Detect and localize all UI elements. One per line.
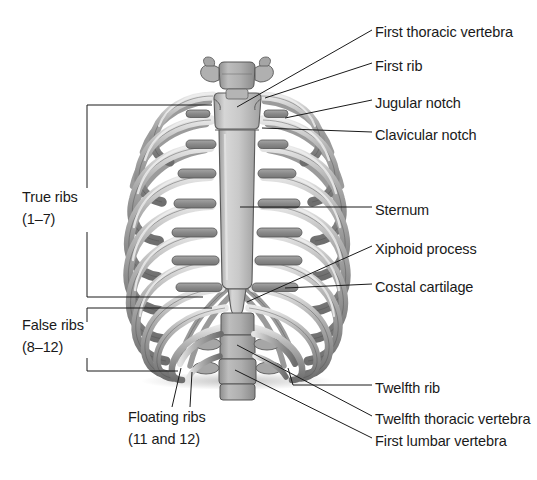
- label-sternum: Sternum: [375, 203, 429, 218]
- costal-cartilage-left-6: [172, 256, 219, 265]
- label-jugular-notch: Jugular notch: [375, 96, 461, 111]
- label-first-thoracic-vertebra: First thoracic vertebra: [375, 25, 513, 40]
- costal-cartilage-left-5: [172, 228, 217, 237]
- label-floating-ribs-range: (11 and 12): [128, 432, 200, 447]
- label-twelfth-thoracic-vertebra: Twelfth thoracic vertebra: [375, 412, 530, 427]
- label-costal-cartilage: Costal cartilage: [375, 280, 473, 295]
- twelfth-thoracic-vertebra: [220, 335, 255, 359]
- costal-cartilage-left-3: [178, 169, 216, 178]
- thoracic-cage-illustration: [0, 0, 537, 480]
- upper-vertebral-column: [226, 89, 248, 99]
- rib-cage-diagram: First thoracic vertebra First rib Jugula…: [0, 0, 537, 480]
- label-floating-ribs-name: Floating ribs: [128, 410, 206, 425]
- label-true-ribs-range: (1–7): [22, 212, 55, 227]
- costal-cartilage-left-7: [176, 283, 222, 292]
- vertebra-t11: [221, 313, 254, 335]
- costal-cartilage-left-2: [186, 140, 216, 149]
- costal-cartilage-right-5: [257, 228, 302, 237]
- label-first-rib: First rib: [375, 59, 422, 74]
- label-xiphoid-process: Xiphoid process: [375, 242, 477, 257]
- label-false-ribs-name: False ribs: [22, 318, 84, 333]
- costal-cartilage-left-1: [186, 110, 210, 118]
- costal-cartilage-right-2: [258, 140, 288, 149]
- label-twelfth-rib: Twelfth rib: [375, 381, 440, 396]
- costal-cartilage-right-6: [255, 256, 302, 265]
- label-clavicular-notch: Clavicular notch: [375, 128, 477, 143]
- costal-cartilage-right-3: [258, 169, 296, 178]
- costal-cartilage-right-1: [264, 110, 288, 118]
- label-first-lumbar-vertebra: First lumbar vertebra: [375, 434, 507, 449]
- costal-cartilage-left-4: [174, 199, 216, 208]
- label-false-ribs-range: (8–12): [22, 340, 63, 355]
- label-true-ribs-name: True ribs: [22, 190, 78, 205]
